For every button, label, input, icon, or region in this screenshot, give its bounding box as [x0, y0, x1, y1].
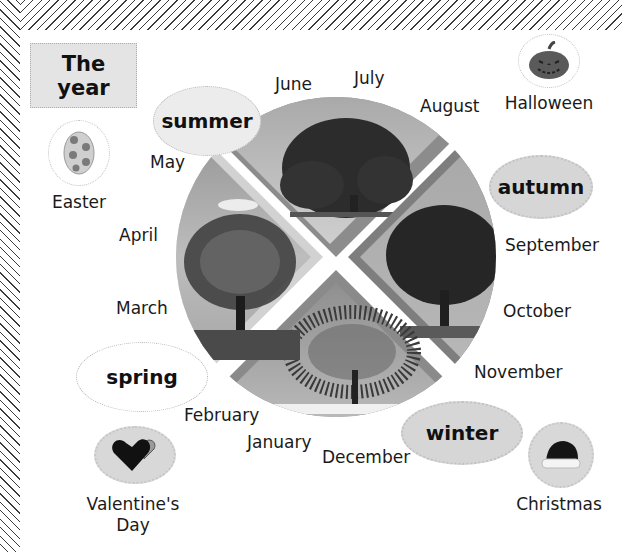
- summer-text: summer: [161, 109, 252, 133]
- heart-chocolate-box-icon: [110, 435, 160, 475]
- season-label-winter: winter: [401, 401, 523, 465]
- month-october: October: [503, 301, 571, 321]
- title-line-2: year: [57, 76, 109, 100]
- holiday-label-valentines: Valentine's Day: [78, 494, 188, 536]
- month-february: February: [184, 405, 259, 425]
- title-line-1: The: [57, 52, 109, 76]
- month-april: April: [119, 225, 158, 245]
- month-august: August: [420, 96, 480, 116]
- month-march: March: [116, 298, 168, 318]
- valentines-line-1: Valentine's: [78, 494, 188, 515]
- month-may: May: [150, 152, 185, 172]
- pumpkin-icon: [527, 41, 571, 81]
- page-title: The year: [30, 43, 137, 108]
- season-label-spring: spring: [76, 342, 208, 412]
- spring-text: spring: [106, 365, 178, 389]
- holiday-label-christmas: Christmas: [512, 494, 606, 515]
- winter-text: winter: [426, 421, 499, 445]
- easter-egg-icon: [62, 130, 96, 176]
- month-july: July: [354, 68, 385, 88]
- valentines-line-2: Day: [78, 515, 188, 536]
- valentines-icon-frame: [94, 426, 176, 484]
- easter-icon-frame: [48, 120, 110, 186]
- month-november: November: [474, 362, 562, 382]
- holiday-label-easter: Easter: [44, 192, 114, 213]
- month-january: January: [247, 432, 311, 452]
- autumn-text: autumn: [498, 175, 585, 199]
- month-june: June: [275, 74, 312, 94]
- season-label-autumn: autumn: [489, 155, 593, 219]
- holiday-label-halloween: Halloween: [503, 93, 595, 114]
- halloween-icon-frame: [518, 34, 580, 88]
- month-december: December: [322, 447, 410, 467]
- christmas-icon-frame: [528, 422, 594, 488]
- month-september: September: [505, 235, 599, 255]
- santa-hat-icon: [538, 437, 584, 473]
- season-label-summer: summer: [153, 86, 261, 156]
